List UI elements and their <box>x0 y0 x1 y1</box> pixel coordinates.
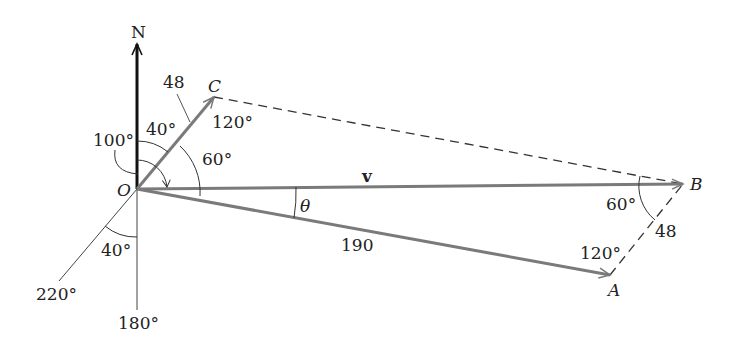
cb-dashed-line <box>214 97 683 184</box>
angle-40-bottom-label: 40° <box>101 240 131 260</box>
bearing-220-line <box>59 189 137 281</box>
bearing-220-label: 220° <box>36 284 77 304</box>
angle-40-bottom-arc <box>105 226 137 237</box>
oc-magnitude-label: 48 <box>163 72 185 92</box>
angle-60-at-b-arc <box>639 176 655 220</box>
origin-label: O <box>117 180 131 200</box>
vector-v-label: v <box>361 166 373 186</box>
ab-magnitude-label: 48 <box>655 221 677 241</box>
bearing-100-label: 100° <box>93 130 134 150</box>
oc-magnitude-leader <box>177 94 190 122</box>
vector-v-resultant <box>137 184 683 189</box>
vector-oc <box>137 97 214 189</box>
north-label: N <box>131 22 146 42</box>
theta-arc <box>294 187 296 218</box>
theta-label: θ <box>300 196 310 216</box>
vector-diagram: N 180° 220° 40° C 48 120° B v A 190 120°… <box>0 0 744 347</box>
point-c-label: C <box>208 76 221 96</box>
vector-oa <box>137 189 610 275</box>
point-b-label: B <box>689 174 703 194</box>
point-a-label: A <box>606 280 620 300</box>
bearing-180-label: 180° <box>118 313 159 333</box>
angle-60-at-o-label: 60° <box>202 149 232 169</box>
oa-magnitude-label: 190 <box>341 235 373 255</box>
angle-40-top-label: 40° <box>146 119 176 139</box>
angle-120-at-a-label: 120° <box>580 243 621 263</box>
angle-120-at-c-label: 120° <box>212 112 253 132</box>
bearing-100-leader <box>115 150 138 174</box>
angle-60-at-b-label: 60° <box>606 194 636 214</box>
angle-40-top-arc <box>137 141 168 152</box>
